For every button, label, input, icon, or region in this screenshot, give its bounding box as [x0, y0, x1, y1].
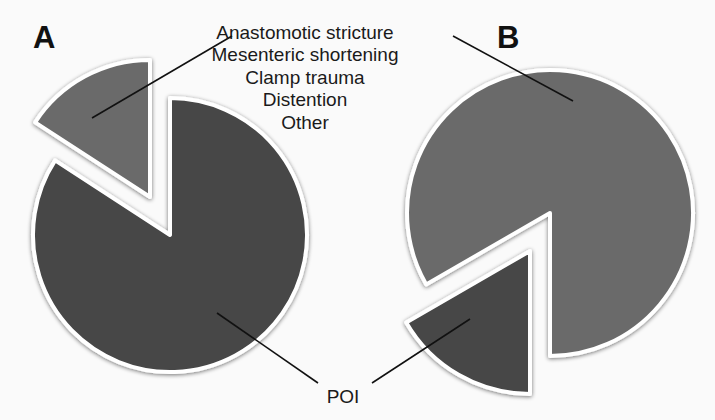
panel-label-a: A — [33, 22, 55, 53]
pie-b — [406, 70, 693, 394]
legend-item-clamp-trauma: Clamp trauma — [200, 67, 410, 89]
legend-item-anastomotic-stricture: Anastomotic stricture — [200, 22, 410, 44]
panel-label-b: B — [497, 22, 519, 53]
legend-item-distention: Distention — [200, 89, 410, 111]
legend-item-mesenteric-shortening: Mesenteric shortening — [200, 44, 410, 66]
legend-item-other: Other — [200, 112, 410, 134]
poi-label: POI — [318, 386, 368, 408]
complication-legend: Anastomotic stricture Mesenteric shorten… — [200, 22, 410, 134]
